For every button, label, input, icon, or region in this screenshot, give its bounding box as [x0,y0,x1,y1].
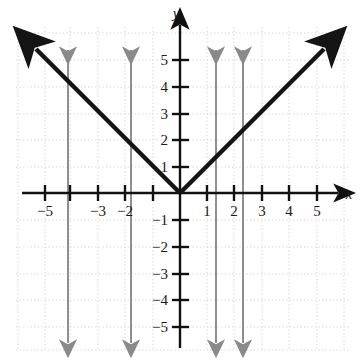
y-tick-label-neg3: −3 [152,266,168,282]
x-tick-label-5: 5 [313,203,321,219]
y-tick-label-2: 2 [161,132,169,148]
coordinate-plane-svg: −5 −3 −2 1 2 3 4 5 1 2 3 4 5 −1 −2 −3 −4… [0,0,364,361]
y-tick-label-1: 1 [161,159,169,175]
x-tick-label-neg5: −5 [37,203,53,219]
y-tick-label-neg4: −4 [152,292,168,308]
x-tick-label-3: 3 [258,203,266,219]
figure-background [0,0,364,361]
x-axis-name-label: x [345,186,353,202]
y-tick-label-5: 5 [161,52,169,68]
y-tick-label-4: 4 [161,79,169,95]
x-tick-label-neg2: −2 [117,203,133,219]
y-tick-label-neg5: −5 [152,319,168,335]
y-tick-label-3: 3 [161,106,169,122]
absolute-value-graph-figure: −5 −3 −2 1 2 3 4 5 1 2 3 4 5 −1 −2 −3 −4… [0,0,364,361]
y-tick-label-neg2: −2 [152,239,168,255]
x-tick-label-4: 4 [285,203,293,219]
x-tick-label-2: 2 [230,203,238,219]
y-tick-label-neg1: −1 [152,212,168,228]
y-axis-name-label: y [171,5,180,21]
x-tick-label-neg3: −3 [90,203,106,219]
x-tick-label-1: 1 [203,203,211,219]
